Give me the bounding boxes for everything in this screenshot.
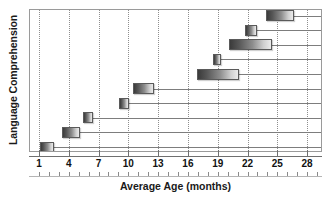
x-tick-major [218, 150, 219, 156]
x-tick-label: 4 [66, 158, 72, 169]
range-bar [213, 54, 221, 65]
y-axis-label: Language Comprehension [7, 15, 19, 145]
x-tick-label: 1 [36, 158, 42, 169]
vertical-gridline [39, 10, 40, 151]
vertical-gridline [158, 10, 159, 151]
range-bar [245, 25, 258, 36]
vertical-gridline [99, 10, 100, 151]
range-bar [133, 83, 154, 94]
x-tick-major [307, 150, 308, 156]
x-tick-major [277, 150, 278, 156]
x-tick-label: 7 [96, 158, 102, 169]
row-rule [133, 89, 322, 90]
x-tick-major [99, 150, 100, 156]
x-tick-label: 22 [242, 158, 253, 169]
vertical-gridline [218, 10, 219, 151]
x-axis-label: Average Age (months) [29, 180, 322, 192]
x-tick-major [39, 150, 40, 156]
y-axis-label-container: Language Comprehension [0, 0, 26, 160]
range-bar [197, 69, 239, 80]
row-rule [119, 103, 322, 104]
range-bar [119, 98, 129, 109]
x-tick-label: 25 [272, 158, 283, 169]
row-rule [83, 118, 322, 119]
x-tick-label: 10 [123, 158, 134, 169]
range-bar [62, 127, 80, 138]
x-axis-line [29, 156, 322, 157]
x-tick-label: 19 [212, 158, 223, 169]
chart-figure: Language Comprehension 14710131619222528… [0, 0, 331, 201]
vertical-gridline [128, 10, 129, 151]
range-bar [83, 112, 93, 123]
x-tick-label: 28 [302, 158, 313, 169]
x-tick-major [248, 150, 249, 156]
row-rule [213, 59, 322, 60]
x-tick-label: 13 [153, 158, 164, 169]
x-tick-major [69, 150, 70, 156]
x-tick-label: 16 [182, 158, 193, 169]
range-bar [229, 39, 273, 50]
x-tick-major [158, 150, 159, 156]
row-rule [40, 147, 322, 148]
vertical-gridline [188, 10, 189, 151]
range-bar [266, 10, 294, 21]
x-tick-major [188, 150, 189, 156]
x-axis-minor-rule [29, 176, 322, 177]
range-bar [40, 142, 54, 153]
plot-area [29, 9, 322, 152]
row-rule [62, 132, 322, 133]
x-tick-major [128, 150, 129, 156]
